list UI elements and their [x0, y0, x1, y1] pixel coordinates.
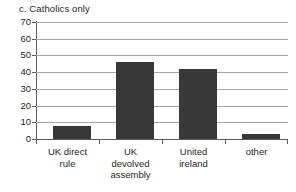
y-axis-tick-labels: 70 60 50 40 30 20 10 0 [0, 0, 31, 192]
x-label-other: other [225, 146, 288, 158]
y-tick-label-0: 0 [1, 134, 31, 144]
y-tick-label-70: 70 [1, 17, 31, 27]
y-tick-label-60: 60 [1, 34, 31, 44]
bar-uk-direct-rule [53, 126, 91, 139]
x-tick-mark-1 [99, 139, 100, 144]
x-tick-mark-3 [225, 139, 226, 144]
gridline-50 [36, 55, 288, 56]
x-label-line: rule [36, 158, 99, 170]
gridline-20 [36, 106, 288, 107]
x-label-line: assembly [99, 169, 162, 181]
gridline-10 [36, 122, 288, 123]
x-axis-tick-labels: UK direct rule UK devolved assembly Unit… [36, 146, 288, 192]
bar-united-ireland [179, 69, 217, 139]
x-label-line: other [225, 146, 288, 158]
y-tick-label-10: 10 [1, 117, 31, 127]
gridline-30 [36, 89, 288, 90]
y-tick-label-40: 40 [1, 67, 31, 77]
x-tick-mark-0 [36, 139, 37, 144]
bar-chart-figure: c. Catholics only 70 60 50 40 30 20 10 0 [0, 0, 296, 192]
x-label-line: UK [99, 146, 162, 158]
y-tick-label-30: 30 [1, 84, 31, 94]
plot-area [36, 22, 288, 139]
y-tick-label-50: 50 [1, 50, 31, 60]
x-label-line: UK direct [36, 146, 99, 158]
x-tick-mark-2 [162, 139, 163, 144]
y-tick-label-20: 20 [1, 101, 31, 111]
gridline-40 [36, 72, 288, 73]
x-label-line: devolved [99, 158, 162, 170]
x-label-uk-direct-rule: UK direct rule [36, 146, 99, 169]
gridline-60 [36, 39, 288, 40]
x-label-line: ireland [162, 158, 225, 170]
x-label-line: United [162, 146, 225, 158]
bar-other [242, 134, 280, 139]
x-tick-mark-4 [287, 139, 288, 144]
gridline-70 [36, 22, 288, 23]
x-label-uk-devolved-assembly: UK devolved assembly [99, 146, 162, 181]
bar-uk-devolved-assembly [116, 62, 154, 139]
x-label-united-ireland: United ireland [162, 146, 225, 169]
